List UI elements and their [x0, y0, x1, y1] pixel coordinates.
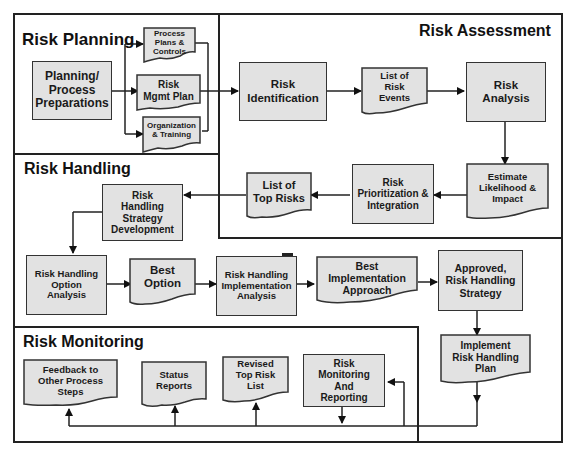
monitoring-reporting-box: Risk Monitoring And Reporting: [303, 354, 385, 407]
best-implementation-doc: Best Implementation Approach: [317, 257, 417, 291]
process-plans-doc: Process Plans & Controls: [144, 28, 195, 58]
list-top-risks-doc: List of Top Risks: [247, 173, 311, 209]
revised-top-risk-doc: Revised Top Risk List: [223, 357, 288, 392]
strategy-development-box: Risk Handling Strategy Development: [102, 184, 183, 241]
option-analysis-box: Risk Handling Option Analysis: [26, 255, 107, 315]
risk-analysis-box: Risk Analysis: [466, 62, 546, 122]
implement-plan-doc: Implement Risk Handling Plan: [441, 335, 530, 372]
section-title-risk-assessment: Risk Assessment: [419, 22, 551, 40]
implementation-analysis-box: Risk Handling Implementation Analysis: [216, 256, 297, 316]
approved-strategy-box: Approved, Risk Handling Strategy: [438, 250, 523, 311]
estimate-likelihood-doc: Estimate Likelihood & Impact: [467, 164, 548, 208]
risk-identification-box: Risk Identification: [239, 62, 327, 121]
list-risk-events-doc: List of Risk Events: [362, 68, 427, 104]
feedback-doc: Feedback to Other Process Steps: [24, 360, 117, 397]
planning-preparations-box: Planning/ Process Preparations: [32, 61, 112, 120]
risk-prioritization-box: Risk Prioritization & Integration: [352, 164, 434, 224]
org-training-doc: Organization & Training: [143, 117, 200, 145]
section-title-risk-planning: Risk Planning: [22, 30, 134, 50]
risk-mgmt-plan-doc: Risk Mgmt Plan: [137, 75, 200, 105]
status-reports-doc: Status Reports: [142, 362, 206, 399]
section-title-risk-monitoring: Risk Monitoring: [23, 333, 144, 351]
section-title-risk-handling: Risk Handling: [24, 160, 131, 178]
best-option-doc: Best Option: [130, 259, 195, 294]
